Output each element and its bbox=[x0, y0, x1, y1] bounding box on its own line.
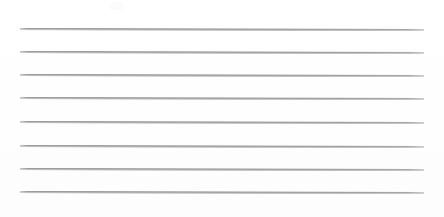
scan-artifact bbox=[110, 2, 123, 10]
paper-surface bbox=[0, 0, 444, 217]
document-page bbox=[0, 0, 444, 217]
